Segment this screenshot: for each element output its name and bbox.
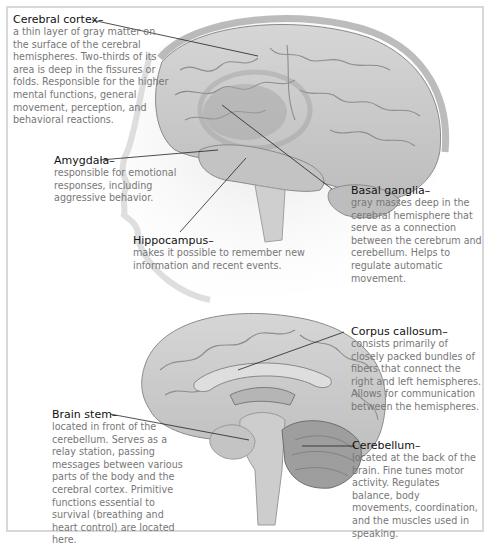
label-text: located at the back of the brain. Fine t… — [352, 452, 478, 539]
label-text: gray masses deep in the cerebral hemisph… — [351, 197, 482, 284]
label-brain-stem: Brain stem– located in front of the cere… — [52, 408, 192, 545]
label-title: Basal ganglia– — [351, 184, 483, 197]
label-title: Amygdala– — [54, 154, 184, 167]
label-basal-ganglia: Basal ganglia– gray masses deep in the c… — [351, 184, 483, 285]
label-text: a thin layer of gray matter on the surfa… — [13, 26, 168, 125]
pons-shape — [210, 425, 255, 459]
label-cerebral-cortex: Cerebral cortex– a thin layer of gray ma… — [13, 13, 171, 127]
label-title: Brain stem– — [52, 408, 192, 421]
label-corpus-callosum: Corpus callosum– consists primarily of c… — [351, 325, 483, 414]
label-text: consists primarily of closely packed bun… — [351, 338, 481, 412]
label-cerebellum: Cerebellum– located at the back of the b… — [352, 439, 482, 540]
label-text: responsible for emotional responses, inc… — [54, 167, 176, 203]
basal-ganglia-shape — [203, 84, 287, 140]
label-text: makes it possible to remember new inform… — [133, 247, 305, 271]
label-title: Cerebellum– — [352, 439, 482, 452]
label-title: Hippocampus– — [133, 234, 313, 247]
label-title: Corpus callosum– — [351, 325, 483, 338]
label-text: located in front of the cerebellum. Serv… — [52, 421, 183, 545]
label-title: Cerebral cortex– — [13, 13, 171, 26]
label-amygdala: Amygdala– responsible for emotional resp… — [54, 154, 184, 205]
label-hippocampus: Hippocampus– makes it possible to rememb… — [133, 234, 313, 272]
